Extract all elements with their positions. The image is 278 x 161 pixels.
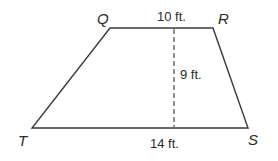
vertex-label-t: T [18,132,29,149]
vertex-label-q: Q [97,10,109,27]
height-length-label: 9 ft. [180,67,202,82]
trapezoid-qrst [32,28,248,128]
trapezoid-diagram: Q R S T 10 ft. 9 ft. 14 ft. [0,0,278,161]
top-base-length-label: 10 ft. [157,9,186,24]
vertex-label-r: R [218,10,229,27]
vertex-label-s: S [248,131,258,148]
bottom-base-length-label: 14 ft. [150,136,179,151]
